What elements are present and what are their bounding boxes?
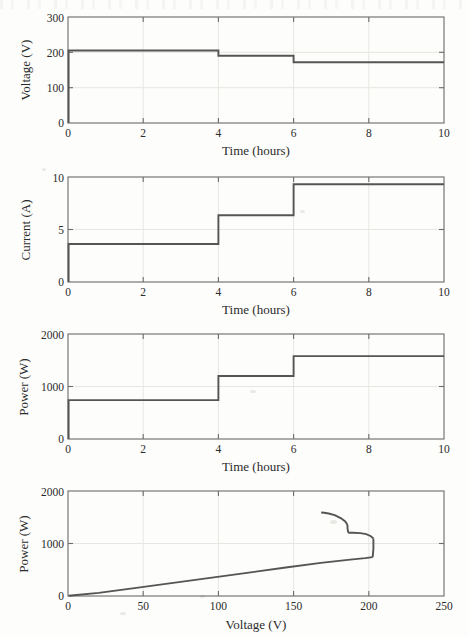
ticks-voltage [68, 17, 444, 123]
svg-text:10: 10 [53, 172, 65, 184]
yticklabels-power-time: 2000 1000 0 [41, 329, 64, 446]
power-time-trace [69, 356, 444, 439]
svg-text:2: 2 [140, 286, 146, 298]
svg-text:0: 0 [65, 443, 71, 455]
yticklabels-power-voltage: 2000 1000 0 [41, 486, 64, 603]
plot-frame-voltage [68, 17, 444, 123]
svg-text:0: 0 [58, 590, 64, 602]
svg-text:0: 0 [65, 600, 71, 612]
yaxis-label-power-time-chart: Power (W) [16, 358, 31, 415]
svg-text:2000: 2000 [41, 329, 64, 341]
pv-load-line-segment-2 [348, 533, 373, 539]
svg-text:4: 4 [216, 443, 222, 455]
xticklabels-current: 0 2 4 6 8 10 [65, 286, 450, 298]
svg-text:6: 6 [291, 127, 297, 139]
xaxis-label-power-voltage-chart: Voltage (V) [226, 617, 287, 632]
xaxis-label-power-time-chart: Time (hours) [222, 459, 290, 474]
xaxis-label-voltage-chart: Time (hours) [222, 143, 290, 158]
svg-text:10: 10 [438, 286, 450, 298]
pv-load-line-segment-1 [69, 557, 373, 596]
svg-text:5: 5 [58, 224, 64, 236]
svg-text:0: 0 [65, 127, 71, 139]
svg-text:200: 200 [360, 600, 378, 612]
svg-text:200: 200 [47, 47, 65, 59]
svg-text:1000: 1000 [41, 381, 64, 393]
xaxis-label-current-chart: Time (hours) [222, 302, 290, 317]
svg-text:0: 0 [58, 433, 64, 445]
chart-voltage-vs-time: 300 200 100 0 0 2 4 6 8 10 Time (hours) … [0, 0, 468, 160]
gridlines-voltage [68, 17, 444, 123]
svg-text:50: 50 [137, 600, 149, 612]
yticklabels-voltage: 300 200 100 0 [47, 12, 65, 130]
chart-power-vs-time: 2000 1000 0 0 2 4 6 8 10 Time (hours) Po… [0, 317, 468, 474]
svg-text:2000: 2000 [41, 486, 64, 498]
svg-text:10: 10 [438, 443, 450, 455]
power-vs-voltage-svg: 2000 1000 0 0 50 100 150 200 250 Voltage… [0, 474, 468, 637]
svg-text:8: 8 [366, 443, 372, 455]
current-trace [69, 184, 444, 282]
figure-panel-stack: 300 200 100 0 0 2 4 6 8 10 Time (hours) … [0, 0, 468, 637]
svg-text:100: 100 [210, 600, 228, 612]
svg-text:0: 0 [58, 117, 64, 129]
svg-text:150: 150 [285, 600, 303, 612]
xticklabels-power-time: 0 2 4 6 8 10 [65, 443, 450, 455]
pv-load-line-segment-3 [321, 513, 347, 525]
svg-text:8: 8 [366, 127, 372, 139]
pv-knee-drop-segment-2 [348, 525, 349, 533]
svg-text:1000: 1000 [41, 538, 64, 550]
gridlines-power-time [68, 334, 444, 439]
svg-text:100: 100 [47, 82, 65, 94]
svg-text:0: 0 [65, 286, 71, 298]
svg-text:6: 6 [291, 443, 297, 455]
xticklabels-power-voltage: 0 50 100 150 200 250 [65, 600, 453, 612]
current-vs-time-svg: 10 5 0 0 2 4 6 8 10 Time (hours) Current… [0, 160, 468, 317]
yticklabels-current: 10 5 0 [53, 172, 65, 289]
voltage-trace [69, 51, 444, 124]
svg-text:8: 8 [366, 286, 372, 298]
chart-current-vs-time: 10 5 0 0 2 4 6 8 10 Time (hours) Current… [0, 160, 468, 317]
svg-text:0: 0 [58, 276, 64, 288]
yaxis-label-current-chart: Current (A) [18, 199, 33, 260]
voltage-vs-time-svg: 300 200 100 0 0 2 4 6 8 10 Time (hours) … [0, 0, 468, 160]
xticklabels-voltage: 0 2 4 6 8 10 [65, 127, 450, 139]
gridlines-power-voltage [68, 491, 444, 596]
gridlines-current [68, 177, 444, 282]
svg-text:2: 2 [140, 443, 146, 455]
svg-text:4: 4 [216, 127, 222, 139]
yaxis-label-power-voltage-chart: Power (W) [16, 515, 31, 572]
yaxis-label-voltage-chart: Voltage (V) [18, 40, 33, 101]
svg-text:6: 6 [291, 286, 297, 298]
svg-text:4: 4 [216, 286, 222, 298]
chart-power-vs-voltage: 2000 1000 0 0 50 100 150 200 250 Voltage… [0, 474, 468, 637]
power-vs-time-svg: 2000 1000 0 0 2 4 6 8 10 Time (hours) Po… [0, 317, 468, 474]
svg-text:300: 300 [47, 12, 65, 24]
svg-text:2: 2 [140, 127, 146, 139]
svg-text:250: 250 [435, 600, 453, 612]
pv-knee-drop-segment-1 [373, 539, 374, 558]
svg-text:10: 10 [438, 127, 450, 139]
